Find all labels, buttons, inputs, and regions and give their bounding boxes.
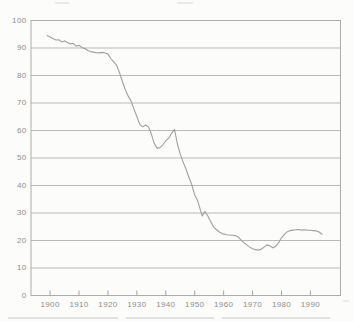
y-tick-label: 90 xyxy=(17,43,27,52)
x-tick-label: 1910 xyxy=(69,300,88,309)
y-tick-label: 0 xyxy=(22,291,27,300)
y-tick-label: 100 xyxy=(12,16,27,25)
y-tick-label: 40 xyxy=(17,181,27,190)
chart-page: 0102030405060708090100190019101920193019… xyxy=(0,0,354,322)
y-tick-label: 20 xyxy=(17,236,27,245)
y-tick-label: 70 xyxy=(17,98,27,107)
x-tick-label: 1990 xyxy=(301,300,320,309)
line-chart-svg: 0102030405060708090100190019101920193019… xyxy=(0,0,354,322)
x-tick-label: 1900 xyxy=(40,300,59,309)
x-tick-label: 1960 xyxy=(214,300,233,309)
x-tick-label: 1950 xyxy=(185,300,204,309)
y-tick-label: 30 xyxy=(17,208,27,217)
x-tick-label: 1920 xyxy=(98,300,117,309)
data-line xyxy=(47,36,322,251)
y-tick-label: 80 xyxy=(17,71,27,80)
y-tick-label: 10 xyxy=(17,263,27,272)
x-tick-label: 1930 xyxy=(127,300,146,309)
y-tick-label: 50 xyxy=(17,153,27,162)
y-tick-label: 60 xyxy=(17,126,27,135)
x-tick-label: 1940 xyxy=(156,300,175,309)
x-tick-label: 1980 xyxy=(272,300,291,309)
x-tick-label: 1970 xyxy=(243,300,262,309)
